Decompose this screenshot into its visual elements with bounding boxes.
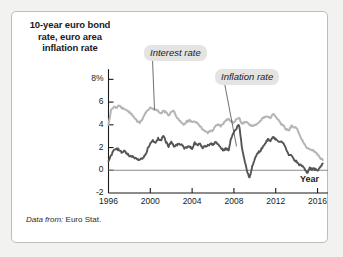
- y-axis-tick-label: 8%: [63, 73, 104, 83]
- x-axis-tick-label: 2016: [296, 196, 340, 206]
- source-note: Data from: Euro Stat.: [26, 215, 101, 224]
- series-line-interest-rate: [109, 106, 323, 161]
- series-line-inflation-rate: [109, 125, 323, 177]
- annotation-interest-rate: Interest rate: [144, 45, 207, 61]
- y-axis-tick-label: 4: [63, 119, 104, 129]
- figure-root: 10-year euro bond rate, euro area inflat…: [0, 0, 343, 257]
- leader-line-inflation: [225, 83, 237, 146]
- y-axis-tick-label: 2: [63, 142, 104, 152]
- x-axis-tick-label: 2000: [128, 196, 172, 206]
- x-axis-tick-label: 2004: [170, 196, 214, 206]
- x-axis-title: Year: [300, 174, 319, 184]
- x-axis-tick-label: 1996: [87, 196, 131, 206]
- source-value: Euro Stat.: [66, 215, 102, 224]
- chart-series-group: [109, 106, 323, 178]
- chart-axes: [109, 69, 329, 193]
- plot-area: -202468% 199620002004200820122016 Year I…: [12, 12, 329, 244]
- y-axis-tick-label: 0: [63, 164, 104, 174]
- figure-card: 10-year euro bond rate, euro area inflat…: [11, 11, 328, 243]
- y-axis-tick-label: 6: [63, 96, 104, 106]
- x-axis-tick-label: 2008: [212, 196, 256, 206]
- x-axis-tick-label: 2012: [254, 196, 298, 206]
- source-prefix: Data from:: [26, 215, 63, 224]
- annotation-inflation-rate: Inflation rate: [215, 69, 279, 85]
- leader-line-interest: [153, 59, 155, 109]
